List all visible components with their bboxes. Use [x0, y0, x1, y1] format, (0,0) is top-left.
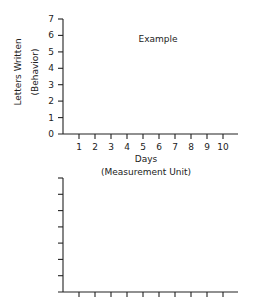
y-axis-sublabel: (Behavior): [30, 49, 40, 96]
blank-x-ticks: [79, 292, 223, 297]
charts-canvas: 7 6 5 4 3 2 1 0 1 2 3 4 5 6: [0, 0, 254, 304]
y-ticks: [58, 19, 63, 118]
x-tick-2: 2: [92, 142, 98, 152]
y-tick-4: 4: [48, 63, 54, 73]
x-tick-7: 7: [172, 142, 178, 152]
chart-title: Example: [138, 34, 178, 44]
y-tick-3: 3: [48, 80, 54, 90]
blank-y-ticks: [58, 178, 63, 276]
x-tick-6: 6: [156, 142, 162, 152]
x-tick-1: 1: [76, 142, 82, 152]
y-tick-6: 6: [48, 30, 54, 40]
x-tick-9: 9: [204, 142, 210, 152]
x-tick-8: 8: [188, 142, 194, 152]
y-tick-1: 1: [48, 113, 54, 123]
x-tick-5: 5: [140, 142, 146, 152]
example-chart: 7 6 5 4 3 2 1 0 1 2 3 4 5 6: [13, 14, 238, 177]
y-axis-label: Letters Written: [13, 38, 23, 105]
x-tick-4: 4: [124, 142, 130, 152]
x-tick-3: 3: [108, 142, 114, 152]
y-tick-labels: 7 6 5 4 3 2 1 0: [48, 14, 54, 139]
y-tick-2: 2: [48, 96, 54, 106]
x-ticks: [79, 134, 223, 139]
blank-chart: [58, 178, 238, 297]
y-tick-0: 0: [48, 129, 54, 139]
x-tick-10: 10: [217, 142, 229, 152]
x-axis-sublabel: (Measurement Unit): [101, 167, 191, 177]
x-axis-label: Days: [135, 154, 158, 164]
x-tick-labels: 1 2 3 4 5 6 7 8 9 10: [76, 142, 229, 152]
y-tick-5: 5: [48, 47, 54, 57]
y-tick-7: 7: [48, 14, 54, 24]
